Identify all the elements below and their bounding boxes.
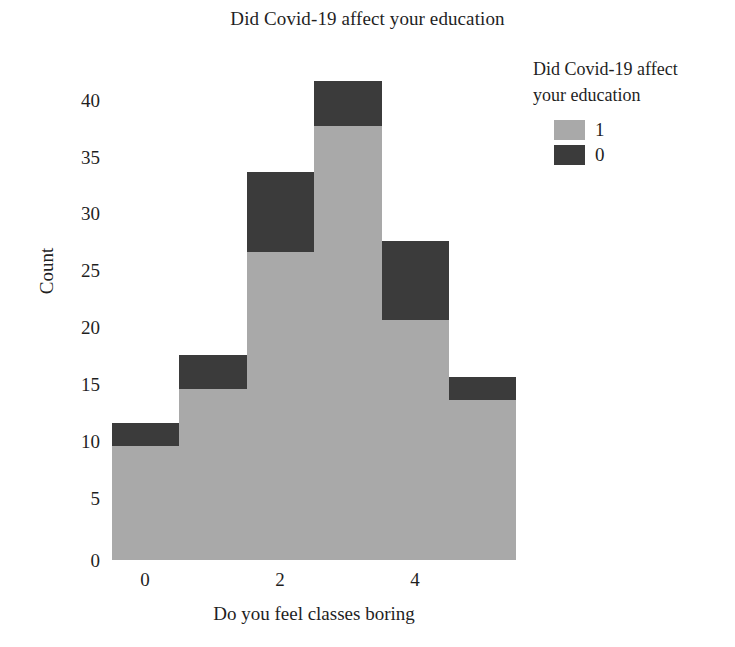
legend-swatch-icon-1 bbox=[554, 120, 585, 140]
bar-column-4 bbox=[382, 241, 449, 560]
x-axis-tick-labels: 0 2 4 bbox=[0, 569, 735, 597]
plot-area bbox=[112, 58, 516, 560]
y-tick-15: 15 bbox=[40, 375, 100, 394]
bar-column-2 bbox=[247, 172, 314, 560]
legend-item-0[interactable]: 0 bbox=[554, 142, 733, 167]
bar-segment-dark-4 bbox=[382, 241, 449, 321]
y-tick-0: 0 bbox=[40, 551, 100, 570]
legend-item-1[interactable]: 1 bbox=[554, 117, 733, 142]
legend-swatch-icon-0 bbox=[554, 145, 585, 165]
x-tick-0: 0 bbox=[115, 569, 175, 591]
bar-segment-light-1 bbox=[179, 389, 246, 560]
bar-segment-dark-5 bbox=[449, 377, 516, 400]
y-tick-5: 5 bbox=[40, 489, 100, 508]
chart-title: Did Covid-19 affect your education bbox=[0, 8, 735, 30]
bar-segment-light-3 bbox=[314, 126, 381, 560]
bar-segment-light-2 bbox=[247, 252, 314, 560]
bar-column-3 bbox=[314, 81, 381, 560]
legend-title-line-2: your education bbox=[533, 82, 708, 108]
bar-column-5 bbox=[449, 377, 516, 560]
bar-segment-dark-2 bbox=[247, 172, 314, 252]
legend-label-1: 1 bbox=[595, 119, 605, 141]
y-tick-35: 35 bbox=[40, 148, 100, 167]
y-tick-25: 25 bbox=[40, 261, 100, 280]
legend-label-0: 0 bbox=[595, 144, 605, 166]
y-tick-10: 10 bbox=[40, 432, 100, 451]
bar-segment-dark-3 bbox=[314, 81, 381, 127]
x-tick-2: 2 bbox=[250, 569, 310, 591]
x-axis-label: Do you feel classes boring bbox=[112, 603, 516, 625]
legend-title: Did Covid-19 affect your education bbox=[533, 56, 708, 108]
bar-column-1 bbox=[179, 355, 246, 560]
bar-segment-dark-1 bbox=[179, 355, 246, 389]
legend: Did Covid-19 affect your education 1 0 bbox=[533, 56, 733, 167]
legend-title-line-1: Did Covid-19 affect bbox=[533, 56, 708, 82]
y-tick-20: 20 bbox=[40, 318, 100, 337]
y-tick-40: 40 bbox=[40, 91, 100, 110]
bar-segment-dark-0 bbox=[112, 423, 179, 446]
bar-column-0 bbox=[112, 423, 179, 560]
bar-segment-light-0 bbox=[112, 446, 179, 560]
legend-items: 1 0 bbox=[554, 117, 733, 167]
y-axis-tick-labels: 10 5 0 15 20 25 30 35 40 bbox=[36, 0, 100, 647]
bar-segment-light-5 bbox=[449, 400, 516, 560]
x-tick-4: 4 bbox=[385, 569, 445, 591]
y-tick-30: 30 bbox=[40, 204, 100, 223]
bar-segment-light-4 bbox=[382, 320, 449, 560]
